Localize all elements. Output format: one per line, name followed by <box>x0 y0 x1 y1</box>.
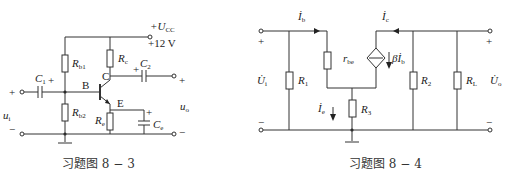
svg-text:Re: Re <box>94 114 105 128</box>
resistor-rc <box>107 50 113 67</box>
svg-text:+: + <box>179 74 185 86</box>
svg-text:C2: C2 <box>140 57 151 71</box>
svg-text:βİb: βİb <box>391 52 405 66</box>
svg-text:Rc: Rc <box>117 52 128 66</box>
svg-text:U̇o: U̇o <box>490 74 502 88</box>
svg-text:İe: İe <box>317 102 325 116</box>
svg-text:RL: RL <box>465 74 477 88</box>
svg-text:Rb1: Rb1 <box>71 57 86 71</box>
resistor-r2 <box>410 72 417 89</box>
svg-text:+: + <box>146 106 152 118</box>
resistor-rbe <box>324 52 331 69</box>
resistor-rb1 <box>62 55 68 72</box>
resistor-r3 <box>349 100 356 117</box>
svg-text:+: + <box>48 74 54 86</box>
resistor-rb2 <box>62 104 68 121</box>
current-arrow-ic <box>393 28 399 34</box>
svg-text:R1: R1 <box>297 74 309 88</box>
resistor-rl <box>454 72 461 89</box>
svg-text:−: − <box>179 126 185 138</box>
svg-text:R3: R3 <box>360 103 372 117</box>
svg-text:Rb2: Rb2 <box>71 106 86 120</box>
svg-text:+: + <box>486 35 492 47</box>
resistor-r1 <box>286 72 293 89</box>
svg-text:İb: İb <box>297 10 306 24</box>
svg-text:E: E <box>117 97 124 109</box>
svg-text:+: + <box>133 63 139 75</box>
svg-text:−: − <box>9 123 15 135</box>
figure-8-3: +UCC +12 V Rb1 Rb2 Rc Re C1 C2 Ce + + + … <box>3 20 190 171</box>
svg-text:−: − <box>486 116 492 128</box>
svg-text:+UCC: +UCC <box>150 20 175 34</box>
current-arrow-ib <box>314 28 320 34</box>
figure-8-4: İb İc İe rbe βİb R1 R3 R2 RL U̇i U̇o + −… <box>257 10 502 171</box>
svg-text:+: + <box>9 86 15 98</box>
resistor-re <box>107 113 113 130</box>
svg-text:C: C <box>102 70 109 82</box>
svg-text:+: + <box>258 35 264 47</box>
svg-text:−: − <box>258 116 264 128</box>
svg-text:B: B <box>82 79 89 91</box>
svg-text:C1: C1 <box>35 72 46 86</box>
figure-caption-8-3: 习题图 8 − 3 <box>62 157 135 171</box>
svg-text:uo: uo <box>180 100 190 114</box>
svg-text:R2: R2 <box>420 74 432 88</box>
figure-caption-8-4: 习题图 8 − 4 <box>349 157 422 171</box>
circuit-diagrams: +UCC +12 V Rb1 Rb2 Rc Re C1 C2 Ce + + + … <box>0 0 507 181</box>
svg-text:ui: ui <box>3 109 11 123</box>
current-arrow-ie <box>330 114 336 121</box>
svg-text:Ce: Ce <box>153 118 163 132</box>
svg-text:İc: İc <box>381 10 389 24</box>
svg-text:rbe: rbe <box>343 52 354 66</box>
svg-text:U̇i: U̇i <box>257 74 267 88</box>
supply-voltage-label: +12 V <box>148 37 176 49</box>
